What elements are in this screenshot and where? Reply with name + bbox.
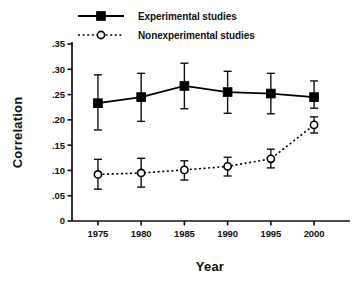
legend: Experimental studiesNonexperimental stud… xyxy=(78,11,255,41)
series-2 xyxy=(94,117,318,189)
series-line xyxy=(98,86,314,103)
legend-label: Experimental studies xyxy=(138,11,237,22)
data-point-marker-square xyxy=(310,93,319,102)
x-tick-label: 1985 xyxy=(174,228,196,239)
x-tick-label: 2000 xyxy=(304,228,325,239)
x-axis-title: Year xyxy=(196,259,224,274)
y-tick-label: .05 xyxy=(52,190,66,201)
correlation-by-year-chart: .35.30.25.20.15.10.050197519801985199019… xyxy=(0,0,357,281)
data-point-marker-circle xyxy=(267,155,274,162)
y-tick-label: .10 xyxy=(52,165,65,176)
series-1 xyxy=(94,63,319,130)
figure: .35.30.25.20.15.10.050197519801985199019… xyxy=(0,0,357,281)
series-line xyxy=(98,125,314,175)
data-point-marker-circle xyxy=(224,163,231,170)
x-tick-label: 1975 xyxy=(88,228,110,239)
x-tick-label: 1990 xyxy=(217,228,238,239)
data-point-marker-square xyxy=(267,89,276,98)
legend-marker-square xyxy=(97,12,106,21)
y-tick-label: .25 xyxy=(52,89,66,100)
legend-item: Nonexperimental studies xyxy=(78,30,255,41)
legend-marker-circle xyxy=(97,31,104,38)
data-point-marker-circle xyxy=(138,169,145,176)
y-tick-label: .20 xyxy=(52,114,65,125)
y-tick-label: .35 xyxy=(52,38,66,49)
y-axis-title: Correlation xyxy=(10,97,25,169)
data-point-marker-square xyxy=(94,99,103,108)
data-point-marker-square xyxy=(137,93,146,102)
data-point-marker-square xyxy=(180,82,189,91)
y-tick-label: 0 xyxy=(60,215,65,226)
data-point-marker-circle xyxy=(310,121,317,128)
x-tick-label: 1995 xyxy=(260,228,282,239)
y-tick-label: .15 xyxy=(52,140,66,151)
x-tick-label: 1980 xyxy=(131,228,152,239)
legend-label: Nonexperimental studies xyxy=(138,30,255,41)
y-tick-label: .30 xyxy=(52,64,65,75)
legend-item: Experimental studies xyxy=(78,11,237,22)
data-point-marker-circle xyxy=(94,171,101,178)
data-point-marker-square xyxy=(223,88,232,97)
data-point-marker-circle xyxy=(181,166,188,173)
